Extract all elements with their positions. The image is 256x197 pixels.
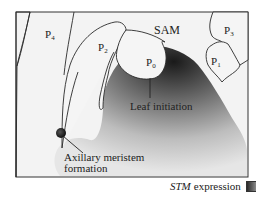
axillary-meristem-dot: [56, 128, 66, 138]
legend: STM expression: [170, 180, 256, 192]
label-sam: SAM: [154, 24, 180, 36]
legend-gene-name: STM: [170, 180, 191, 192]
label-p4: P4: [45, 28, 55, 44]
label-axillary-line2: formation: [64, 162, 107, 174]
stm-expression-diagram: P4 P2 SAM P0 P3 P1 Leaf initiation Axill…: [0, 0, 256, 197]
label-p3: P3: [224, 24, 234, 40]
legend-text: expression: [194, 180, 241, 192]
label-p0: P0: [146, 56, 156, 72]
label-p1: P1: [211, 55, 221, 71]
label-leaf-initiation: Leaf initiation: [130, 100, 193, 112]
label-p2: P2: [98, 41, 108, 57]
legend-swatch: [246, 181, 256, 192]
meristem-illustration: [0, 0, 256, 197]
